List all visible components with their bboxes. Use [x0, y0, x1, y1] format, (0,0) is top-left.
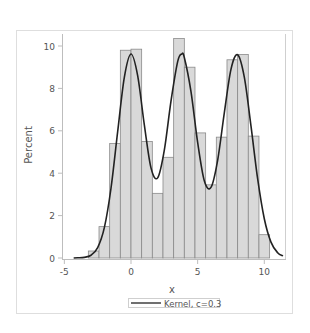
histogram-bar	[120, 50, 131, 258]
histogram-bar	[163, 157, 174, 258]
y-tick-label: 10	[44, 42, 56, 52]
y-tick-label: 8	[49, 84, 55, 94]
y-axis-label: Percent	[23, 126, 34, 164]
histogram-bar	[184, 67, 195, 258]
histogram-bar	[238, 54, 249, 258]
x-tick-label: 0	[128, 267, 134, 277]
x-tick-label: 5	[195, 267, 201, 277]
legend-label: Kernel, c=0.3	[164, 299, 221, 309]
x-tick-label: 10	[259, 267, 271, 277]
histogram-bar	[206, 185, 217, 258]
histogram-chart: 0246810 -50510 Percent x Kernel, c=0.3	[0, 0, 310, 333]
histogram-bar	[195, 133, 206, 258]
histogram-bar	[142, 141, 153, 258]
y-tick-label: 0	[49, 254, 55, 264]
y-tick-label: 6	[49, 126, 55, 136]
histogram-bar	[131, 49, 142, 258]
y-tick-label: 4	[49, 169, 55, 179]
histogram-bar	[152, 193, 163, 258]
chart-canvas: 0246810 -50510 Percent x Kernel, c=0.3	[0, 0, 310, 333]
histogram-bar	[227, 60, 238, 258]
legend: Kernel, c=0.3	[129, 299, 222, 309]
x-tick-label: -5	[60, 267, 69, 277]
histogram-bar	[248, 136, 259, 258]
x-axis-label: x	[169, 284, 175, 295]
y-tick-label: 2	[49, 211, 55, 221]
histogram-bar	[259, 235, 270, 258]
